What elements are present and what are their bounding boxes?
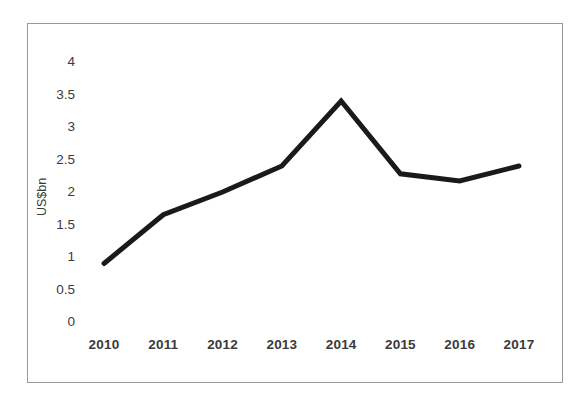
y-tick-label: 0.5 bbox=[40, 283, 75, 297]
x-tick-label: 2010 bbox=[89, 338, 120, 352]
chart-figure: US$bn 00.511.522.533.54 2010201120122013… bbox=[0, 0, 586, 404]
y-tick-label: 2 bbox=[40, 185, 75, 199]
x-tick-label: 2017 bbox=[504, 338, 535, 352]
x-tick-label: 2012 bbox=[207, 338, 238, 352]
x-tick-label: 2015 bbox=[385, 338, 416, 352]
y-tick-label: 0 bbox=[40, 315, 75, 329]
y-tick-label: 2.5 bbox=[40, 153, 75, 167]
y-tick-label: 3.5 bbox=[40, 88, 75, 102]
y-tick-label: 1.5 bbox=[40, 218, 75, 232]
x-tick-label: 2014 bbox=[326, 338, 357, 352]
chart-frame-border bbox=[27, 23, 563, 383]
y-tick-label: 4 bbox=[40, 55, 75, 69]
x-tick-label: 2016 bbox=[444, 338, 475, 352]
x-tick-label: 2013 bbox=[266, 338, 297, 352]
y-tick-label: 3 bbox=[40, 120, 75, 134]
x-tick-label: 2011 bbox=[148, 338, 178, 352]
y-tick-label: 1 bbox=[40, 250, 75, 264]
